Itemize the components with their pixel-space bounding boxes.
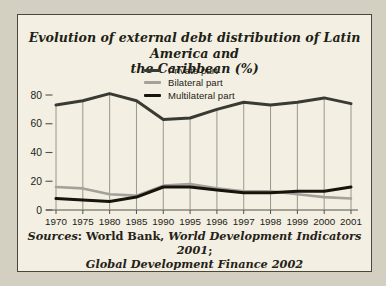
legend-item-private: Private part <box>144 64 235 77</box>
chart-legend: Private part Bilateral part Multilateral… <box>144 64 235 102</box>
figure-frame: Evolution of external debt distribution … <box>17 14 372 272</box>
x-tick-label: 1980 <box>99 216 121 227</box>
y-tick-label: 80 <box>31 90 43 101</box>
sources-label: Sources <box>28 229 78 243</box>
sources-work1: World Development Indicators 2001 <box>168 229 361 257</box>
x-tick-label: 2000 <box>313 216 335 227</box>
bilateral-line-swatch-icon <box>144 81 161 84</box>
sources-semicolon: ; <box>208 243 212 257</box>
x-tick-label: 1970 <box>45 216 67 227</box>
y-tick-label: 60 <box>31 118 43 129</box>
x-tick-label: 1998 <box>260 216 282 227</box>
private-line-swatch-icon <box>144 69 161 72</box>
sources-work2: Global Development Finance 2002 <box>86 257 303 271</box>
x-tick-label: 1995 <box>179 216 201 227</box>
x-tick-label: 1990 <box>152 216 174 227</box>
multilateral-line-swatch-icon <box>144 94 161 97</box>
legend-label-private: Private part <box>168 65 218 76</box>
x-tick-label: 1997 <box>233 216 255 227</box>
legend-label-bilateral: Bilateral part <box>168 77 223 88</box>
x-tick-label: 1996 <box>206 216 228 227</box>
y-tick-label: 40 <box>31 147 43 158</box>
x-tick-label: 1999 <box>286 216 308 227</box>
x-tick-label: 1975 <box>72 216 94 227</box>
y-tick-label: 20 <box>31 176 43 187</box>
x-tick-label: 1985 <box>126 216 148 227</box>
x-tick-label: 2001 <box>340 216 362 227</box>
scanned-page: { "figure": { "title": { "line1": "Evolu… <box>0 0 386 286</box>
sources-publisher: : World Bank, <box>78 229 168 243</box>
sources-caption: Sources: World Bank, World Development I… <box>18 229 371 271</box>
legend-label-multilateral: Multilateral part <box>168 90 235 101</box>
y-tick-label: 0 <box>36 205 42 216</box>
legend-item-multilateral: Multilateral part <box>144 89 235 102</box>
legend-item-bilateral: Bilateral part <box>144 77 235 90</box>
